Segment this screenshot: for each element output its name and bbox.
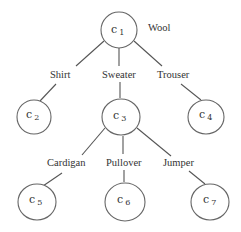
- root-label: Wool: [148, 22, 171, 33]
- edge-label-cardigan: Cardigan: [47, 157, 86, 168]
- edge-label-shirt: Shirt: [50, 69, 71, 80]
- node-c5: c5: [18, 184, 56, 220]
- edge-c3-c5-lower: [43, 173, 62, 186]
- tree-diagram: c1 c2 c3 c4 c5 c6 c7 Wool Shirt Sweater …: [0, 0, 241, 232]
- edge-c1-c4-upper: [134, 41, 162, 66]
- edge-label-pullover: Pullover: [106, 157, 142, 168]
- edge-c3-c7-upper: [137, 128, 171, 156]
- node-c7: c7: [191, 184, 229, 220]
- edge-c1-c4-lower: [181, 84, 201, 100]
- node-circle: [191, 184, 229, 220]
- edge-c1-c2-lower: [40, 84, 56, 101]
- edge-c3-c7-lower: [189, 171, 205, 184]
- edge-label-sweater: Sweater: [102, 69, 136, 80]
- node-c3: c3: [102, 99, 140, 135]
- node-c1: c1: [101, 12, 137, 48]
- node-c6: c6: [105, 183, 145, 221]
- edge-label-jumper: Jumper: [163, 157, 194, 168]
- edge-c3-c5-upper: [82, 128, 105, 155]
- node-c4: c4: [188, 100, 224, 134]
- node-circle: [188, 100, 224, 134]
- node-c2: c2: [17, 100, 51, 134]
- edge-c1-c2-upper: [76, 41, 104, 66]
- edge-label-trouser: Trouser: [157, 69, 190, 80]
